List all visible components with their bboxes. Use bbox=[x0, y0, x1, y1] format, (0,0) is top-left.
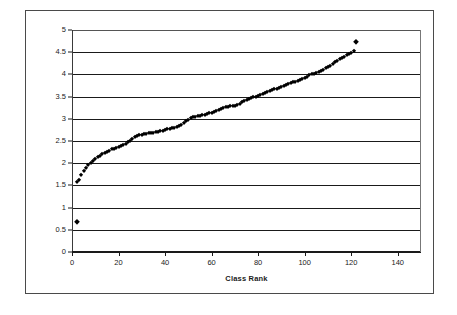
y-tick-mark bbox=[68, 118, 72, 119]
data-point bbox=[77, 177, 82, 182]
y-tick-label: 4 bbox=[62, 71, 66, 79]
y-tick-mark bbox=[68, 52, 72, 53]
x-tick-mark bbox=[351, 252, 352, 256]
y-tick-label: 3.5 bbox=[56, 93, 66, 101]
gridline bbox=[72, 74, 421, 75]
x-tick-mark bbox=[258, 252, 259, 256]
gridline bbox=[72, 185, 421, 186]
gridline bbox=[72, 52, 421, 53]
x-tick-mark bbox=[305, 252, 306, 256]
gridline bbox=[72, 208, 421, 209]
y-tick-label: 2 bbox=[62, 159, 66, 167]
data-point bbox=[79, 172, 84, 177]
x-tick-label: 100 bbox=[298, 259, 311, 267]
x-tick-label: 120 bbox=[345, 259, 358, 267]
x-tick-mark bbox=[72, 252, 73, 256]
x-tick-mark bbox=[212, 252, 213, 256]
y-tick-label: 4.5 bbox=[56, 48, 66, 56]
data-point bbox=[353, 39, 359, 45]
gridline bbox=[72, 163, 421, 164]
y-tick-label: 3 bbox=[62, 115, 66, 123]
x-tick-label: 0 bbox=[70, 259, 74, 267]
x-tick-mark bbox=[119, 252, 120, 256]
y-tick-label: 0 bbox=[62, 248, 66, 256]
y-tick-label: 5 bbox=[62, 26, 66, 34]
data-point bbox=[74, 219, 80, 225]
y-tick-mark bbox=[68, 163, 72, 164]
y-tick-label: 1 bbox=[62, 204, 66, 212]
gridline bbox=[72, 230, 421, 231]
x-axis-line bbox=[72, 251, 421, 252]
y-tick-mark bbox=[68, 141, 72, 142]
y-tick-mark bbox=[68, 30, 72, 31]
x-tick-label: 20 bbox=[114, 259, 122, 267]
y-tick-mark bbox=[68, 185, 72, 186]
y-tick-mark bbox=[68, 74, 72, 75]
x-tick-mark bbox=[398, 252, 399, 256]
x-tick-label: 140 bbox=[391, 259, 404, 267]
gridline bbox=[72, 30, 421, 31]
y-tick-label: 0.5 bbox=[56, 226, 66, 234]
plot-area: 00.511.522.533.544.55 020406080100120140… bbox=[72, 30, 421, 252]
y-tick-mark bbox=[68, 229, 72, 230]
x-axis-title: Class Rank bbox=[72, 274, 421, 283]
x-tick-label: 60 bbox=[207, 259, 215, 267]
y-tick-label: 2.5 bbox=[56, 137, 66, 145]
plot-right-border bbox=[420, 30, 421, 252]
chart-frame: 00.511.522.533.544.55 020406080100120140… bbox=[25, 10, 434, 294]
y-axis-line bbox=[72, 30, 73, 252]
x-tick-label: 80 bbox=[254, 259, 262, 267]
x-tick-label: 40 bbox=[161, 259, 169, 267]
gridline bbox=[72, 252, 421, 253]
gridline bbox=[72, 119, 421, 120]
y-tick-mark bbox=[68, 207, 72, 208]
screenshot-root: 00.511.522.533.544.55 020406080100120140… bbox=[0, 0, 457, 315]
y-tick-label: 1.5 bbox=[56, 182, 66, 190]
x-tick-mark bbox=[165, 252, 166, 256]
y-tick-mark bbox=[68, 96, 72, 97]
